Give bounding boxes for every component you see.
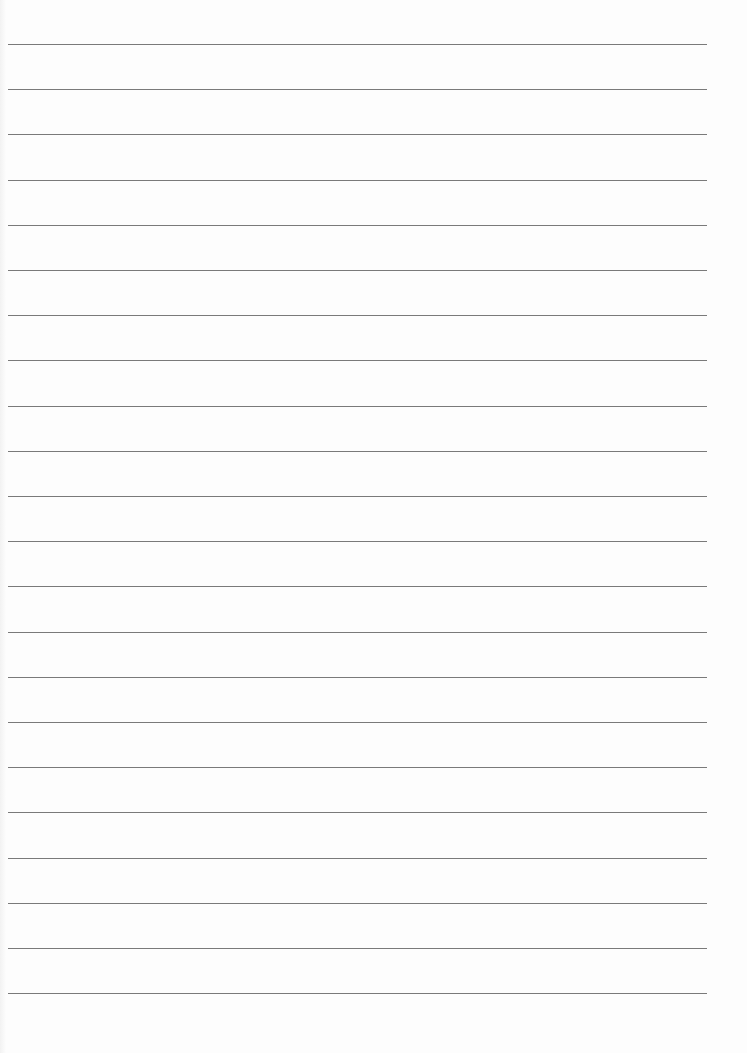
page-edge-shadow (0, 0, 6, 1053)
ruled-line (8, 993, 707, 994)
ruled-line (8, 180, 707, 181)
ruled-line (8, 270, 707, 271)
ruled-line (8, 767, 707, 768)
lined-paper-page (0, 0, 747, 1053)
ruled-line (8, 496, 707, 497)
ruled-line (8, 134, 707, 135)
ruled-line (8, 948, 707, 949)
ruled-line (8, 903, 707, 904)
ruled-line (8, 722, 707, 723)
ruled-line (8, 812, 707, 813)
ruled-line (8, 451, 707, 452)
ruled-line (8, 315, 707, 316)
ruled-line (8, 44, 707, 45)
ruled-line (8, 89, 707, 90)
ruled-line (8, 541, 707, 542)
ruled-line (8, 406, 707, 407)
ruled-line (8, 632, 707, 633)
ruled-line (8, 360, 707, 361)
ruled-line (8, 858, 707, 859)
ruled-line (8, 677, 707, 678)
ruled-line (8, 586, 707, 587)
ruled-line (8, 225, 707, 226)
